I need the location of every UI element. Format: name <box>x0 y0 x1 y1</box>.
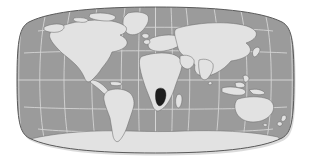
region-arctic-islands-2 <box>73 18 88 23</box>
world-map-svg <box>0 0 311 167</box>
island-philippines <box>243 75 249 82</box>
island-tasmania <box>263 124 267 127</box>
world-map-figure: World map locator Namibia <box>0 0 311 167</box>
island-new-zealand-south <box>277 122 282 126</box>
island-iceland <box>142 34 149 39</box>
island-british-isles <box>144 40 151 45</box>
